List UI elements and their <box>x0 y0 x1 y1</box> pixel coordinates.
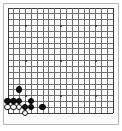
star-point-16-10 <box>95 60 97 62</box>
black-stone-g18[interactable] <box>39 104 46 111</box>
go-board-widget[interactable] <box>0 0 122 131</box>
grid-line-vertical-19 <box>113 8 114 113</box>
star-point-16-16 <box>95 95 97 97</box>
grid-line-vertical-12 <box>72 8 73 113</box>
grid-line-vertical-14 <box>84 8 85 113</box>
grid-line-vertical-5 <box>31 8 32 113</box>
grid-line-vertical-8 <box>48 8 49 113</box>
star-point-4-10 <box>25 60 27 62</box>
grid-line-vertical-18 <box>107 8 108 113</box>
grid-line-vertical-9 <box>54 8 55 113</box>
star-point-10-4 <box>60 25 62 27</box>
star-point-4-16 <box>25 95 27 97</box>
grid-line-vertical-3 <box>19 8 20 113</box>
star-point-16-4 <box>95 25 97 27</box>
grid-line-vertical-17 <box>101 8 102 113</box>
grid-line-vertical-7 <box>43 8 44 113</box>
grid-line-vertical-15 <box>89 8 90 113</box>
board-grid[interactable] <box>8 8 113 113</box>
star-point-10-16 <box>60 95 62 97</box>
grid-line-vertical-11 <box>66 8 67 113</box>
grid-line-vertical-6 <box>37 8 38 113</box>
star-point-4-4 <box>25 25 27 27</box>
star-point-10-10 <box>60 60 62 62</box>
grid-line-vertical-13 <box>78 8 79 113</box>
